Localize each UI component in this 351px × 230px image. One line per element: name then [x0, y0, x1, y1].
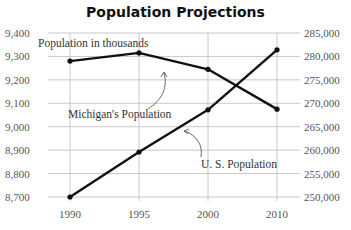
- left-axis-ticks: 9,4009,3009,2009,1009,0008,9008,8008,700: [5, 27, 30, 203]
- right-axis-ticks: 285,000280,000275,000270,000265,000260,0…: [304, 27, 340, 203]
- right-tick-label: 285,000: [304, 27, 340, 39]
- right-tick-label: 270,000: [304, 97, 340, 109]
- right-tick-label: 250,000: [304, 191, 340, 203]
- right-tick-label: 255,000: [304, 168, 340, 180]
- x-tick-label: 2010: [266, 208, 289, 220]
- data-point: [274, 107, 279, 112]
- data-point: [67, 59, 72, 64]
- us-label: U. S. Population: [201, 158, 277, 171]
- x-tick-label: 1995: [128, 208, 151, 220]
- data-point: [136, 149, 141, 154]
- michigan-label: Michigan's Population: [68, 108, 172, 121]
- x-axis-ticks: 1990199520002010: [59, 208, 289, 220]
- data-point: [205, 67, 210, 72]
- left-tick-label: 9,100: [5, 97, 30, 109]
- data-point: [136, 50, 141, 55]
- data-point: [205, 107, 210, 112]
- left-tick-label: 8,900: [5, 144, 30, 156]
- right-tick-label: 260,000: [304, 144, 340, 156]
- data-series: [67, 47, 279, 199]
- data-point: [274, 47, 279, 52]
- right-tick-label: 265,000: [304, 121, 340, 133]
- left-tick-label: 8,800: [5, 168, 30, 180]
- left-tick-label: 9,400: [5, 27, 30, 39]
- left-tick-label: 9,000: [5, 121, 30, 133]
- units-note: Population in thousands: [38, 37, 149, 50]
- x-tick-label: 1990: [59, 208, 82, 220]
- left-tick-label: 9,300: [5, 50, 30, 62]
- left-tick-label: 8,700: [5, 191, 30, 203]
- us-arrow: [185, 131, 201, 157]
- right-tick-label: 280,000: [304, 50, 340, 62]
- series-line: [70, 53, 277, 109]
- data-point: [67, 194, 72, 199]
- series-line: [70, 50, 277, 197]
- right-tick-label: 275,000: [304, 74, 340, 86]
- x-tick-label: 2000: [197, 208, 220, 220]
- left-tick-label: 9,200: [5, 74, 30, 86]
- line-chart: 9,4009,3009,2009,1009,0008,9008,8008,700…: [0, 0, 351, 230]
